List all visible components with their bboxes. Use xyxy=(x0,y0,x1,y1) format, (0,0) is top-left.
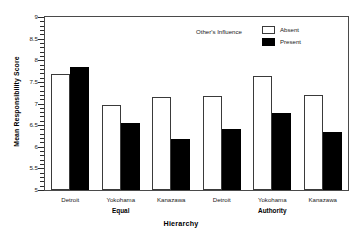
y-axis-minor-tick xyxy=(40,65,44,66)
bar-absent-0 xyxy=(51,74,70,190)
y-axis-minor-tick xyxy=(40,151,44,152)
bar-series-container xyxy=(45,17,348,190)
y-axis-minor-tick xyxy=(40,30,44,31)
y-axis-tick-label: 8.5 xyxy=(4,36,38,42)
y-axis-tick-label: 8 xyxy=(4,57,38,63)
y-axis-minor-tick xyxy=(40,78,44,79)
y-axis-minor-tick xyxy=(40,142,44,143)
legend-label-present: Present xyxy=(280,39,301,45)
y-axis-minor-tick xyxy=(40,26,44,27)
y-axis-minor-tick xyxy=(40,138,44,139)
legend-swatch-present-icon xyxy=(262,38,275,46)
y-axis-minor-tick xyxy=(40,34,44,35)
y-axis-minor-tick xyxy=(40,160,44,161)
y-axis-minor-tick xyxy=(40,112,44,113)
legend-label-absent: Absent xyxy=(280,27,299,33)
y-axis-minor-tick xyxy=(40,134,44,135)
y-axis-title: Mean Responsibility Score xyxy=(13,27,20,177)
y-axis-minor-tick xyxy=(40,108,44,109)
y-axis-tick-label: 9 xyxy=(4,14,38,20)
y-axis-minor-tick xyxy=(40,52,44,53)
y-axis-minor-tick xyxy=(40,129,44,130)
y-axis-tick-label: 6 xyxy=(4,144,38,150)
bar-absent-1 xyxy=(102,105,121,190)
x-axis-group-label-authority: Authority xyxy=(232,208,312,214)
y-axis-minor-tick xyxy=(40,95,44,96)
y-axis-minor-tick xyxy=(40,173,44,174)
y-axis-tick xyxy=(38,82,44,83)
y-axis-tick xyxy=(38,39,44,40)
y-axis-minor-tick xyxy=(40,69,44,70)
bar-present-1 xyxy=(121,123,140,190)
y-axis-minor-tick xyxy=(40,91,44,92)
y-axis-minor-tick xyxy=(40,21,44,22)
y-axis-minor-tick xyxy=(40,86,44,87)
y-axis-tick xyxy=(38,104,44,105)
bar-present-0 xyxy=(70,67,89,190)
bar-present-2 xyxy=(171,139,190,190)
bar-present-4 xyxy=(272,113,291,190)
y-axis-tick-label: 5 xyxy=(4,187,38,193)
bar-absent-2 xyxy=(152,97,171,190)
y-axis-tick-label: 6.5 xyxy=(4,122,38,128)
y-axis-tick xyxy=(38,60,44,61)
y-axis-minor-tick xyxy=(40,43,44,44)
y-axis-minor-tick xyxy=(40,47,44,48)
y-axis-tick-label: 7.5 xyxy=(4,79,38,85)
y-axis-tick xyxy=(38,17,44,18)
y-axis-minor-tick xyxy=(40,177,44,178)
y-axis-minor-tick xyxy=(40,56,44,57)
legend-swatch-absent-icon xyxy=(262,26,275,34)
y-axis-minor-tick xyxy=(40,116,44,117)
responsibility-score-bar-chart: 98.587.576.565.55 Mean Responsibility Sc… xyxy=(0,0,362,230)
x-axis-group-label-equal: Equal xyxy=(81,208,161,214)
y-axis-tick-label: 5.5 xyxy=(4,165,38,171)
y-axis-minor-tick xyxy=(40,181,44,182)
bar-present-3 xyxy=(222,129,241,190)
y-axis-minor-tick xyxy=(40,186,44,187)
legend-title: Other's Influence xyxy=(196,29,242,35)
y-axis-tick xyxy=(38,190,44,191)
y-axis-tick-label: 7 xyxy=(4,101,38,107)
y-axis-tick xyxy=(38,125,44,126)
x-axis-category-label: Kanazawa xyxy=(293,197,353,203)
y-axis-tick xyxy=(38,147,44,148)
y-axis-minor-tick xyxy=(40,155,44,156)
y-axis-minor-tick xyxy=(40,121,44,122)
y-axis-minor-tick xyxy=(40,73,44,74)
y-axis-minor-tick xyxy=(40,164,44,165)
y-axis-minor-tick xyxy=(40,99,44,100)
x-axis-title: Hierarchy xyxy=(0,219,362,228)
y-axis-tick xyxy=(38,168,44,169)
bar-absent-3 xyxy=(203,96,222,190)
bar-present-5 xyxy=(323,132,342,190)
bar-absent-5 xyxy=(304,95,323,190)
bar-absent-4 xyxy=(253,76,272,190)
